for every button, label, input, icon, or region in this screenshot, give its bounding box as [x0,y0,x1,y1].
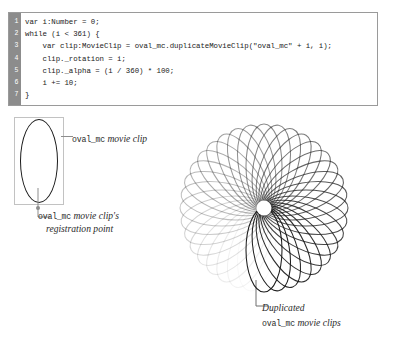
line-number: 4 [9,53,20,65]
label-duplicated-clips: Duplicated oval_mc movie clips [262,300,341,330]
label-registration-point: oval_mc movie clip's registration point [38,208,119,235]
label-code-text: oval_mc [262,319,295,328]
line-number: 1 [9,16,20,28]
label-code-text: oval_mc [72,135,105,144]
line-number: 2 [9,28,20,40]
line-number: 7 [9,89,20,101]
label-italic-text: movie clips [295,317,341,328]
label-italic-text: movie clip's [71,210,119,221]
code-line: while (i < 361) { [25,28,377,40]
label-italic-line1: Duplicated [262,302,305,313]
code-panel: 1 2 3 4 5 6 7 var i:Number = 0; while (i… [8,12,378,106]
duplicated-movie-clips-spirograph [166,114,362,300]
label-line2: oval_mc movie clips [262,315,341,331]
code-line: clip._alpha = (i / 360) * 100; [25,65,377,77]
label-code-text: oval_mc [38,212,71,221]
spirograph-oval [246,208,282,292]
code-line: i += 10; [25,77,377,89]
label-italic-line2: registration point [38,223,119,235]
label-oval-mc-movie-clip: oval_mc movie clip [72,131,147,145]
line-number: 3 [9,40,20,52]
code-line: clip._rotation = i; [25,53,377,65]
line-number: 5 [9,65,20,77]
label-italic-text: movie clip [105,133,147,144]
code-line: var clip:MovieClip = oval_mc.duplicateMo… [25,40,377,52]
code-line: var i:Number = 0; [25,16,377,28]
code-line-number-gutter: 1 2 3 4 5 6 7 [9,13,21,105]
spirograph-center-hole [257,201,272,216]
code-text-area[interactable]: var i:Number = 0; while (i < 361) { var … [21,13,377,105]
line-number: 6 [9,77,20,89]
code-line: } [25,89,377,101]
